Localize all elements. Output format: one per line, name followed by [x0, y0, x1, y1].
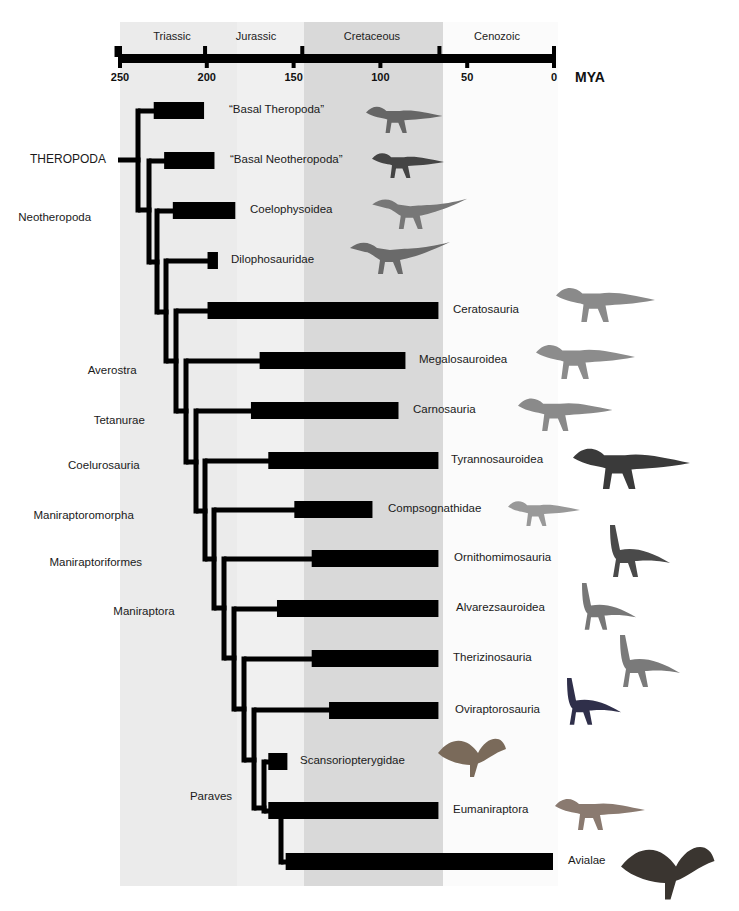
branch	[222, 557, 227, 661]
clade-range-bar	[260, 352, 406, 369]
dinosaur-illustration-ornithomimosaur-icon	[610, 525, 670, 577]
dinosaur-illustration-dilophosaur-icon	[350, 242, 450, 274]
branch	[252, 708, 257, 811]
axis-tick	[292, 58, 296, 68]
period-label: Triassic	[153, 30, 190, 42]
branch	[224, 557, 314, 562]
branch	[186, 359, 262, 364]
axis-tick-label: 200	[198, 71, 216, 83]
dinosaur-illustration-oviraptorosaur-icon	[567, 678, 621, 725]
branch	[155, 209, 160, 315]
branch	[174, 309, 179, 414]
period-label: Cretaceous	[344, 30, 400, 42]
axis-tick	[552, 58, 556, 68]
axis-unit-label: MYA	[575, 69, 605, 85]
branch	[149, 159, 167, 164]
node-label: Paraves	[190, 791, 232, 803]
branch	[242, 657, 247, 763]
clade-range-bar	[312, 550, 439, 567]
clade-range-bar	[312, 650, 439, 667]
clade-range-bar	[173, 202, 235, 219]
branch	[196, 409, 253, 414]
dinosaur-illustration-basal-neotheropod-icon	[372, 153, 444, 178]
clade-label: Coelophysoidea	[250, 204, 332, 216]
period-boundary-tick	[437, 46, 441, 57]
node-label: Averostra	[88, 365, 137, 377]
clade-label: Megalosauroidea	[419, 354, 507, 366]
node-label: Maniraptoriformes	[49, 557, 142, 569]
dinosaur-illustration-dromaeosaur-icon	[555, 799, 645, 830]
branch	[147, 159, 152, 265]
clade-range-bar	[251, 402, 399, 419]
axis-tick	[205, 58, 209, 68]
branch	[138, 109, 156, 114]
clade-label: “Basal Theropoda”	[229, 104, 324, 116]
phylogeny-figure: 250200150100500TriassicJurassicCretaceou…	[0, 0, 739, 911]
cladogram	[0, 0, 739, 911]
clade-range-bar	[268, 753, 287, 770]
clade-label: Scansoriopterygidae	[300, 755, 405, 767]
branch	[157, 209, 175, 214]
branch	[262, 760, 267, 814]
dinosaur-illustration-alvarezsaur-icon	[582, 583, 636, 630]
clade-range-bar	[164, 152, 214, 169]
branch	[164, 259, 169, 364]
axis-tick	[118, 58, 122, 68]
dinosaur-illustration-ceratosaur-icon	[556, 288, 655, 322]
node-label: Tetanurae	[94, 415, 145, 427]
branch	[214, 508, 297, 513]
clade-range-bar	[208, 252, 218, 269]
node-label: Neotheropoda	[18, 212, 91, 224]
root-label: THEROPODA	[30, 153, 106, 165]
branch	[205, 459, 271, 464]
clade-range-bar	[268, 802, 438, 819]
clade-label: Eumaniraptora	[453, 804, 528, 816]
period-label: Jurassic	[236, 30, 276, 42]
branch	[254, 708, 332, 713]
clade-label: Carnosauria	[413, 404, 476, 416]
branch	[136, 109, 141, 213]
dinosaur-illustration-basal-theropod-icon	[366, 107, 443, 133]
axis-tick-label: 150	[284, 71, 302, 83]
clade-label: Tyrannosauroidea	[451, 454, 543, 466]
clade-range-bar	[154, 102, 204, 119]
axis-tick-label: 0	[551, 71, 557, 83]
clade-label: Oviraptorosauria	[455, 704, 540, 716]
clade-label: Dilophosauridae	[231, 254, 314, 266]
branch	[244, 657, 314, 662]
period-boundary-tick	[300, 46, 304, 57]
clade-label: Therizinosauria	[453, 652, 532, 664]
dinosaur-illustration-therizinosaur-icon	[620, 635, 680, 687]
branch	[176, 309, 210, 314]
dinosaur-illustration-compsognathid-icon	[508, 501, 580, 526]
branch	[184, 359, 189, 465]
dinosaur-illustration-megalosaur-icon	[536, 345, 635, 379]
clade-label: Ornithomimosauria	[454, 552, 551, 564]
clade-range-bar	[329, 702, 438, 719]
clade-range-bar	[286, 853, 553, 870]
dinosaur-illustration-carnosaur-icon	[518, 398, 613, 431]
clade-label: Alvarezsauroidea	[456, 602, 545, 614]
axis-tick-label: 100	[371, 71, 389, 83]
branch	[166, 259, 210, 264]
branch	[194, 409, 199, 514]
period-label: Cenozoic	[474, 30, 520, 42]
branch	[234, 607, 279, 612]
dinosaur-illustration-coelophysoid-icon	[372, 199, 467, 229]
clade-range-bar	[277, 600, 438, 617]
axis-tick-label: 50	[461, 71, 473, 83]
clade-label: Compsognathidae	[388, 503, 481, 515]
dinosaur-illustration-bird-icon	[621, 847, 715, 900]
time-axis-line	[119, 54, 555, 63]
period-boundary-tick	[203, 46, 207, 57]
axis-tick	[465, 58, 469, 68]
clade-range-bar	[294, 501, 372, 518]
axis-tick	[378, 58, 382, 68]
clade-label: Avialae	[568, 855, 606, 867]
clade-range-bar	[208, 302, 439, 319]
branch	[212, 508, 217, 611]
node-label: Coelurosauria	[68, 460, 140, 472]
dinosaur-illustration-tyrannosaur-icon	[573, 449, 690, 489]
clade-range-bar	[268, 452, 438, 469]
node-label: Maniraptoromorpha	[33, 510, 133, 522]
